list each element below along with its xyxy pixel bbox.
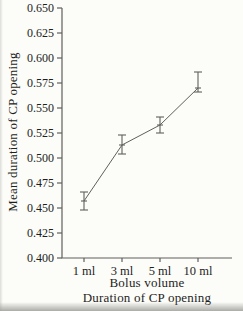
y-tick-label: 0.575 xyxy=(27,76,54,90)
axes xyxy=(62,8,232,258)
y-tick-label: 0.475 xyxy=(27,176,54,190)
x-tick-label: 1 ml xyxy=(73,264,96,278)
y-axis-title: Mean duration of CP opening xyxy=(5,52,21,211)
x-tick-label: 10 ml xyxy=(184,264,213,278)
x-axis-title: Bolus volume xyxy=(110,275,185,291)
y-tick-label: 0.425 xyxy=(27,226,54,240)
y-tick-label: 0.600 xyxy=(27,51,54,65)
y-tick-label: 0.400 xyxy=(27,251,54,265)
series-line xyxy=(84,88,198,201)
y-tick-label: 0.500 xyxy=(27,151,54,165)
scan-artifact-bottom xyxy=(0,302,243,311)
y-tick-label: 0.525 xyxy=(27,126,54,140)
y-tick-label: 0.625 xyxy=(27,26,54,40)
scan-artifact-left xyxy=(0,0,3,311)
line-chart: 0.6500.6250.6000.5750.5500.5250.5000.475… xyxy=(0,0,243,311)
y-tick-label: 0.450 xyxy=(27,201,54,215)
y-tick-label: 0.650 xyxy=(27,1,54,15)
scanned-figure: 0.6500.6250.6000.5750.5500.5250.5000.475… xyxy=(0,0,243,311)
y-tick-label: 0.550 xyxy=(27,101,54,115)
